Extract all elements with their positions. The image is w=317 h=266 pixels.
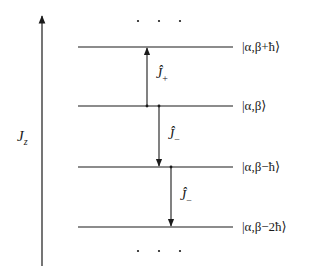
raising-origin-dot [146,105,149,108]
ket-label-beta: |α,β⟩ [242,99,266,112]
lowering-operator-label-1: Ĵ− [168,128,180,145]
lowering-operator-sub-1: − [174,134,180,145]
jz-axis-label: Jz [17,129,28,147]
lowering-operator-label-2: Ĵ− [180,189,192,206]
ket-label-beta-minus-hbar: |α,β−ħ⟩ [242,160,280,173]
jz-label-sub: z [24,136,28,147]
jz-label-main: J [17,128,24,144]
ket-label-beta-plus-hbar: |α,β+ħ⟩ [242,40,280,53]
raising-operator-label: Ĵ+ [156,67,168,84]
raising-operator-sub: + [162,73,168,84]
ellipsis-top [137,20,181,22]
ellipsis-bottom [137,250,181,252]
lowering-origin-dot-1 [158,105,161,108]
ket-label-beta-minus-2hbar: |α,β−2ħ⟩ [242,220,287,233]
lowering-operator-sub-2: − [186,195,192,206]
lowering-origin-dot-2 [170,166,173,169]
